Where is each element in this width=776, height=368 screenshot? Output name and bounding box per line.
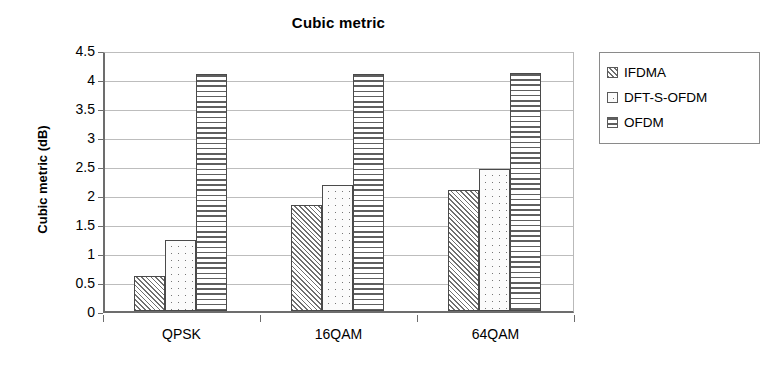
bar-ofdm-16qam[interactable] <box>353 74 384 311</box>
legend-swatch-dot-grid-icon <box>607 92 618 103</box>
bar-dft-s-ofdm-64qam[interactable] <box>479 169 510 311</box>
legend-item-label: IFDMA <box>624 65 666 80</box>
gridline <box>105 110 573 111</box>
x-axis-tick-mark <box>574 315 575 322</box>
legend-swatch-diagonal-hatch-icon <box>607 67 618 78</box>
x-axis-category-label-16qam: 16QAM <box>260 326 417 342</box>
y-axis-tick-label: 4 <box>49 72 95 88</box>
y-axis-tick-label: 3.5 <box>49 101 95 117</box>
bar-ofdm-64qam[interactable] <box>510 73 541 311</box>
y-axis-title: Cubic metric (dB) <box>35 80 50 280</box>
bar-ifdma-64qam[interactable] <box>448 190 479 311</box>
y-axis-tick-label: 1 <box>49 246 95 262</box>
legend-item-label: OFDM <box>624 115 664 130</box>
gridline <box>105 139 573 140</box>
legend-item-label: DFT-S-OFDM <box>624 90 707 105</box>
x-axis-tick-mark <box>103 315 104 322</box>
y-axis-tick-label: 0.5 <box>49 275 95 291</box>
x-axis-tick-mark <box>260 315 261 322</box>
bar-chart: Cubic metric Cubic metric (dB) 4.543.532… <box>0 0 776 368</box>
x-axis-category-label-qpsk: QPSK <box>103 326 260 342</box>
y-axis-tick-label: 0 <box>49 304 95 320</box>
bar-ifdma-qpsk[interactable] <box>134 276 165 311</box>
chart-title: Cubic metric <box>103 14 574 31</box>
plot-area <box>103 52 574 313</box>
legend-item-ifdma[interactable]: IFDMA <box>607 60 753 85</box>
legend-swatch-horizontal-lines-icon <box>607 117 618 128</box>
chart-legend: IFDMADFT-S-OFDMOFDM <box>599 52 760 144</box>
bar-dft-s-ofdm-16qam[interactable] <box>322 185 353 311</box>
bar-ofdm-qpsk[interactable] <box>196 74 227 311</box>
x-axis-category-label-64qam: 64QAM <box>417 326 574 342</box>
y-axis-tick-label: 3 <box>49 130 95 146</box>
y-axis-tick-label: 1.5 <box>49 217 95 233</box>
legend-item-dft-s-ofdm[interactable]: DFT-S-OFDM <box>607 85 753 110</box>
legend-item-ofdm[interactable]: OFDM <box>607 110 753 135</box>
gridline <box>105 52 573 53</box>
y-axis-tick-label: 4.5 <box>49 43 95 59</box>
y-axis-tick-label: 2 <box>49 188 95 204</box>
bar-dft-s-ofdm-qpsk[interactable] <box>165 240 196 311</box>
y-axis-tick-mark <box>98 313 103 314</box>
bar-ifdma-16qam[interactable] <box>291 205 322 311</box>
gridline <box>105 81 573 82</box>
y-axis-tick-label: 2.5 <box>49 159 95 175</box>
x-axis-tick-mark <box>417 315 418 322</box>
